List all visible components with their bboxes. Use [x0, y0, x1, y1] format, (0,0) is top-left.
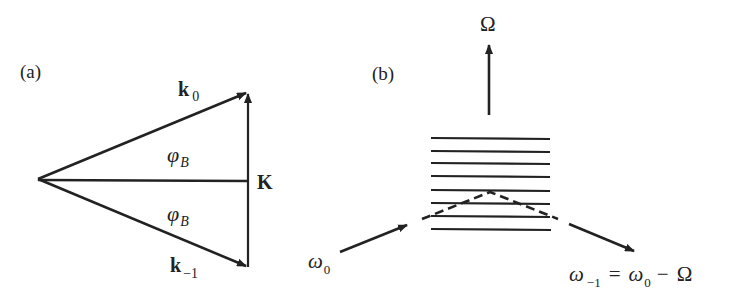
k-minus1-label: k−1 — [170, 254, 198, 281]
omega-big-label: Ω — [480, 12, 496, 36]
panel-a-label: (a) — [20, 61, 41, 83]
K-label: K — [257, 171, 273, 193]
k0-vector-arrow — [38, 93, 246, 179]
panel-a: (a) k0 φB K φB k−1 — [20, 61, 273, 281]
panel-b-label: (b) — [372, 63, 394, 85]
bisector-line — [38, 180, 248, 181]
k-minus1-vector-arrow — [38, 179, 246, 266]
phi-b-lower-label: φB — [167, 201, 189, 229]
panel-b: (b) Ω ω0 ω−1=ω0−Ω — [308, 12, 692, 290]
diffracted-beam-arrow — [569, 224, 634, 251]
omega0-label: ω0 — [308, 249, 330, 277]
phi-b-upper-label: φB — [167, 142, 189, 170]
acoustic-grating — [431, 138, 551, 230]
bragg-diffraction-diagram: (a) k0 φB K φB k−1 (b) Ω — [0, 0, 740, 298]
k0-label: k0 — [178, 78, 199, 104]
omega-minus1-equation: ω−1=ω0−Ω — [569, 262, 692, 290]
incident-beam-arrow — [340, 225, 407, 252]
beam-path-dashed — [422, 192, 558, 219]
